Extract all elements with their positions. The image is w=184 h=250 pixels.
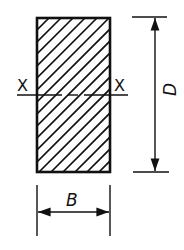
axis-label-right: X [114,76,125,95]
section-diagram: X X D B [0,0,184,250]
axis-label-left: X [17,76,28,95]
dimension-label-d: D [160,83,180,96]
dimension-label-b: B [66,190,78,210]
